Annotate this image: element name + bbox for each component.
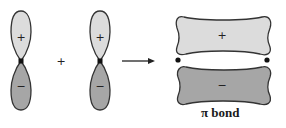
reaction-arrow-icon [122,58,155,64]
plus-sign: + [95,31,104,44]
nucleus-dot [98,59,103,64]
pi-bond-label: π bond [201,105,240,121]
minus-sign: − [16,80,25,93]
plus-operator: + [56,55,65,68]
p-orbital-right: + − [90,11,110,110]
plus-sign: + [16,31,25,44]
pi-bond: + − [175,17,270,105]
pi-bond-diagram: + − + + − + − [0,0,286,128]
minus-sign: − [217,79,226,92]
nucleus-dot-right [264,57,269,62]
nucleus-dot [19,59,24,64]
p-orbital-left: + − [11,11,31,110]
plus-sign: + [217,29,226,42]
nucleus-dot-left [175,57,180,62]
minus-sign: − [95,80,104,93]
